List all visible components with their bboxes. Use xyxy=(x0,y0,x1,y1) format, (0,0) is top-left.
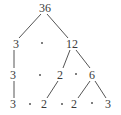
tree-edge-n12-n6 xyxy=(76,50,90,68)
tree-node-n3a: 3 xyxy=(13,38,19,50)
tree-edge-n12-n2a xyxy=(63,50,70,68)
tree-edge-n36-n3a xyxy=(19,14,41,38)
tree-edge-n2a-n2b xyxy=(47,81,58,98)
tree-node-n2b: 2 xyxy=(41,98,47,110)
tree-node-n36: 36 xyxy=(39,2,51,14)
multiplication-dot-icon xyxy=(75,73,77,75)
tree-node-n3d: 3 xyxy=(105,98,111,110)
tree-edge-n6-n2c xyxy=(78,81,90,98)
multiplication-dot-icon xyxy=(41,42,43,44)
factor-tree-edges xyxy=(0,0,121,115)
multiplication-dot-icon xyxy=(29,103,31,105)
tree-node-n3c: 3 xyxy=(10,98,16,110)
tree-node-n2c: 2 xyxy=(71,98,77,110)
tree-node-n12: 12 xyxy=(66,38,78,50)
tree-edge-n6-n3d xyxy=(95,81,106,98)
multiplication-dot-icon xyxy=(39,74,41,76)
tree-edge-n36-n12 xyxy=(47,14,68,38)
multiplication-dot-icon xyxy=(61,103,63,105)
multiplication-dot-icon xyxy=(91,102,93,104)
tree-node-n3b: 3 xyxy=(10,69,16,81)
tree-node-n2a: 2 xyxy=(57,69,63,81)
tree-node-n6: 6 xyxy=(89,69,95,81)
